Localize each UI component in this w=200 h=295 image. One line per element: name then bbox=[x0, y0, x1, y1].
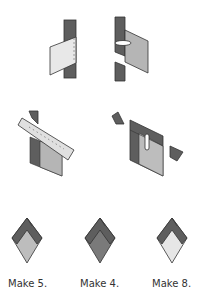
caption-make-4: Make 4. bbox=[80, 278, 119, 289]
step-2-figure bbox=[115, 17, 148, 81]
step-3-figure bbox=[18, 111, 74, 176]
diamond-unit-make-4 bbox=[85, 218, 115, 263]
step-1-figure bbox=[50, 20, 76, 78]
diamond-unit-make-5 bbox=[12, 218, 42, 263]
caption-make-5: Make 5. bbox=[8, 278, 47, 289]
piecing-diagram bbox=[0, 0, 200, 295]
caption-make-8: Make 8. bbox=[152, 278, 191, 289]
step-4-figure bbox=[112, 112, 183, 176]
pin-icon bbox=[115, 41, 131, 46]
pin-icon bbox=[145, 134, 149, 150]
diamond-unit-make-8 bbox=[157, 218, 187, 263]
